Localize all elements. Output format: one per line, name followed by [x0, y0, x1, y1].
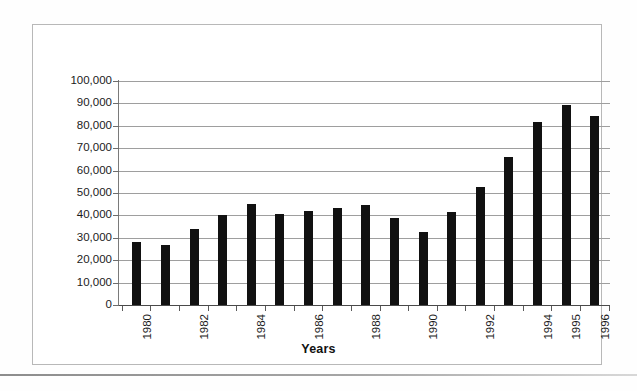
y-axis-tick: [113, 81, 119, 82]
bar: [304, 211, 313, 305]
y-axis-tick-label: 30,000: [50, 232, 112, 244]
bar: [218, 215, 227, 305]
y-axis-tick: [113, 171, 119, 172]
bar: [190, 229, 199, 305]
x-axis-tick-label: 1984: [256, 314, 268, 340]
x-axis-tick: [551, 306, 552, 311]
x-axis-tick: [265, 306, 266, 311]
y-axis-tick-label: 90,000: [50, 98, 112, 110]
plot-area: [119, 81, 610, 305]
y-axis-tick: [113, 126, 119, 127]
x-axis-tick-label: 1980: [142, 314, 154, 340]
x-axis-tick: [236, 306, 237, 311]
y-axis-tick: [113, 283, 119, 284]
x-axis-tick-label: 1988: [371, 314, 383, 340]
x-axis-tick: [380, 306, 381, 311]
bar: [476, 187, 485, 305]
bar: [533, 122, 542, 305]
x-axis-tick: [408, 306, 409, 311]
y-axis-tick-label: 20,000: [50, 254, 112, 266]
x-axis-tick: [351, 306, 352, 311]
bar: [447, 212, 456, 305]
x-axis-tick: [580, 306, 581, 311]
bar: [361, 205, 370, 305]
bar: [504, 157, 513, 305]
y-axis-tick-label: 60,000: [50, 165, 112, 177]
y-axis-tick-label: 80,000: [50, 120, 112, 132]
y-axis-tick: [113, 103, 119, 104]
x-axis-tick: [179, 306, 180, 311]
bar: [590, 116, 599, 305]
scan-artifact-line: [0, 374, 637, 376]
y-axis-tick: [113, 193, 119, 194]
bar: [562, 105, 571, 305]
bar: [247, 204, 256, 305]
y-axis-tick-label: 0: [50, 299, 112, 311]
x-axis-tick: [294, 306, 295, 311]
x-axis-tick-label: 1994: [543, 314, 555, 340]
x-axis-tick: [122, 306, 123, 311]
x-axis-tick: [523, 306, 524, 311]
x-axis-tick-label: 1992: [485, 314, 497, 340]
y-axis-tick: [113, 238, 119, 239]
bar: [275, 214, 284, 305]
x-axis-line: [118, 305, 610, 306]
y-axis-tick-label: 50,000: [50, 187, 112, 199]
bar: [132, 242, 141, 305]
y-axis-tick-label: 100,000: [50, 75, 112, 87]
x-axis-tick-label: 1996: [600, 314, 612, 340]
x-axis-tick: [150, 306, 151, 311]
x-axis-tick-label: 1982: [199, 314, 211, 340]
gridline: [119, 103, 610, 104]
y-axis-tick: [113, 148, 119, 149]
x-axis-tick: [437, 306, 438, 311]
y-axis-tick-labels: 100,00090,00080,00070,00060,00050,00040,…: [46, 0, 112, 391]
y-axis-tick-label: 10,000: [50, 277, 112, 289]
bar: [333, 208, 342, 305]
y-axis-tick: [113, 260, 119, 261]
y-axis-tick: [113, 215, 119, 216]
x-axis-tick: [609, 306, 610, 311]
x-axis-tick-label: 1990: [428, 314, 440, 340]
gridline: [119, 81, 610, 82]
x-axis-tick: [208, 306, 209, 311]
y-axis-tick-label: 40,000: [50, 210, 112, 222]
y-axis-tick: [113, 305, 119, 306]
bar: [390, 218, 399, 305]
bar: [161, 245, 170, 305]
x-axis-tick-label: 1986: [314, 314, 326, 340]
x-axis-title: Years: [0, 342, 637, 356]
y-axis-tick-label: 70,000: [50, 142, 112, 154]
bar: [419, 232, 428, 305]
x-axis-tick: [494, 306, 495, 311]
x-axis-tick-label: 1995: [571, 314, 583, 340]
x-axis-tick: [465, 306, 466, 311]
scanned-page: 100,00090,00080,00070,00060,00050,00040,…: [0, 0, 637, 391]
x-axis-tick: [322, 306, 323, 311]
